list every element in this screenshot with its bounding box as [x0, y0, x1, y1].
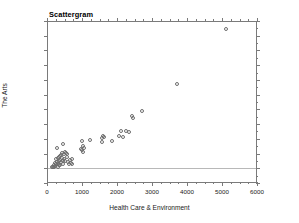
y-tick: [44, 109, 48, 110]
x-minor-tick-bottom: [65, 182, 66, 184]
y-tick-right: [256, 50, 260, 51]
y-minor-tick: [256, 102, 258, 103]
x-tick-top: [152, 18, 153, 22]
data-point: [100, 140, 104, 144]
data-point: [70, 162, 74, 166]
y-axis-title: The Arts: [1, 56, 8, 136]
x-minor-tick-top: [161, 19, 162, 22]
y-tick: [44, 124, 48, 125]
y-minor-tick: [256, 161, 258, 162]
y-tick: [44, 50, 48, 51]
x-minor-tick-bottom: [73, 182, 74, 184]
x-tick: [222, 182, 223, 186]
y-minor-tick: [256, 87, 258, 88]
x-minor-tick-top: [231, 19, 232, 22]
x-axis-title: Health Care & Environment: [0, 204, 299, 211]
y-tick: [44, 36, 48, 37]
x-tick: [257, 182, 258, 186]
x-minor-tick-bottom: [126, 182, 127, 184]
data-point: [80, 139, 84, 143]
y-tick-right: [256, 65, 260, 66]
x-tick: [47, 182, 48, 186]
data-point: [61, 142, 65, 146]
x-tick-top: [222, 18, 223, 22]
y-tick: [44, 154, 48, 155]
x-tick-top: [82, 18, 83, 22]
x-minor-tick-top: [240, 19, 241, 22]
data-point: [82, 146, 86, 150]
x-tick: [117, 182, 118, 186]
y-tick: [44, 95, 48, 96]
x-minor-tick-bottom: [91, 182, 92, 184]
x-minor-tick-bottom: [100, 182, 101, 184]
x-minor-tick-bottom: [143, 182, 144, 184]
x-minor-tick-top: [248, 19, 249, 22]
y-minor-tick: [256, 73, 258, 74]
data-point: [81, 150, 85, 154]
data-point: [117, 134, 121, 138]
data-point: [110, 139, 114, 143]
x-tick-label: 1000: [62, 189, 102, 195]
x-tick: [187, 182, 188, 186]
y-minor-tick: [256, 43, 258, 44]
y-tick: [44, 65, 48, 66]
y-minor-tick: [256, 176, 258, 177]
data-point: [65, 152, 69, 156]
y-tick-right: [256, 139, 260, 140]
data-point: [140, 109, 144, 113]
y-tick: [44, 168, 48, 169]
x-minor-tick-top: [178, 19, 179, 22]
y-tick-right: [256, 36, 260, 37]
x-minor-tick-bottom: [161, 182, 162, 184]
y-minor-tick: [256, 131, 258, 132]
x-minor-tick-bottom: [240, 182, 241, 184]
x-minor-tick-top: [213, 19, 214, 22]
x-minor-tick-bottom: [178, 182, 179, 184]
x-tick-label: 3000: [132, 189, 172, 195]
y-minor-tick: [256, 58, 258, 59]
x-minor-tick-bottom: [170, 182, 171, 184]
x-tick-label: 6000: [237, 189, 277, 195]
chart-title: Scattergram: [49, 10, 93, 19]
x-minor-tick-top: [91, 19, 92, 22]
x-minor-tick-top: [170, 19, 171, 22]
x-minor-tick-top: [100, 19, 101, 22]
x-tick-label: 0: [27, 189, 67, 195]
x-minor-tick-top: [108, 19, 109, 22]
data-point: [121, 135, 125, 139]
x-tick-top: [257, 18, 258, 22]
scattergram-figure: Scattergram -250002500500075001000012500…: [0, 0, 299, 223]
x-minor-tick-top: [135, 19, 136, 22]
x-minor-tick-bottom: [213, 182, 214, 184]
data-point: [102, 135, 106, 139]
y-tick-right: [256, 95, 260, 96]
x-tick-top: [47, 18, 48, 22]
y-tick-right: [256, 124, 260, 125]
plot-area: [47, 21, 257, 183]
x-minor-tick-top: [126, 19, 127, 22]
x-tick: [82, 182, 83, 186]
data-point: [175, 82, 179, 86]
x-minor-tick-bottom: [205, 182, 206, 184]
y-minor-tick: [256, 146, 258, 147]
x-minor-tick-top: [196, 19, 197, 22]
data-point: [119, 129, 123, 133]
data-point: [127, 130, 131, 134]
x-tick: [152, 182, 153, 186]
y-minor-tick: [256, 117, 258, 118]
x-minor-tick-top: [56, 19, 57, 22]
y-tick: [44, 139, 48, 140]
data-point: [88, 138, 92, 142]
y-tick: [44, 80, 48, 81]
x-tick-top: [117, 18, 118, 22]
y-minor-tick: [256, 28, 258, 29]
x-minor-tick-bottom: [196, 182, 197, 184]
x-minor-tick-bottom: [56, 182, 57, 184]
zero-reference-line: [47, 168, 257, 169]
y-tick-right: [256, 80, 260, 81]
y-tick-right: [256, 154, 260, 155]
data-point: [55, 146, 59, 150]
y-axis-spine: [47, 21, 48, 183]
data-point: [224, 27, 228, 31]
x-tick-top: [187, 18, 188, 22]
